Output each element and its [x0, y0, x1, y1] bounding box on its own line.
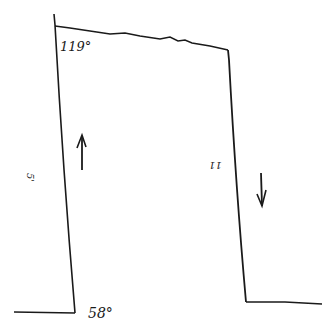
left-side-label: 5': [25, 173, 36, 182]
right-side-line: [228, 50, 246, 302]
down-arrow-icon: [257, 173, 266, 206]
bottom-left-line: [14, 312, 75, 313]
top-angle-label: 119°: [60, 39, 91, 54]
diagram-canvas: 119° 58° 5' 11: [0, 0, 332, 329]
up-arrow-icon: [77, 135, 86, 170]
left-side-line: [54, 14, 75, 313]
right-side-label: 11: [209, 160, 222, 171]
bottom-right-line: [246, 302, 322, 304]
bottom-angle-label: 58°: [88, 305, 113, 321]
sketch-lines: [0, 0, 332, 329]
